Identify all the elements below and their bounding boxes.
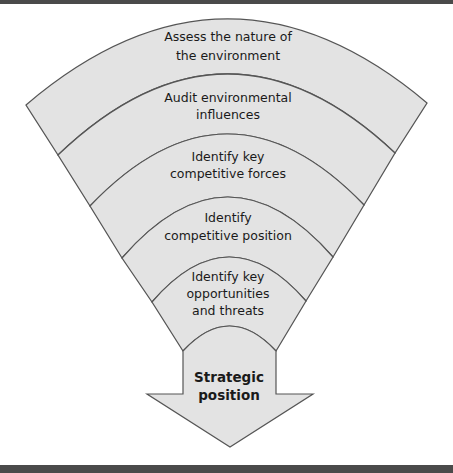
stage-1-label-line-1: Assess the nature of	[164, 29, 292, 44]
output-label-line-2: position	[198, 387, 260, 403]
strategic-position-diagram: Assess the nature ofthe environmentAudit…	[0, 0, 453, 473]
stage-2-label-line-2: influences	[196, 107, 260, 122]
stage-5-label-line-3: and threats	[192, 303, 264, 318]
bottom-frame-bar	[0, 465, 453, 473]
stage-3-label-line-2: competitive forces	[170, 166, 286, 181]
output-label-line-1: Strategic	[194, 369, 264, 385]
stage-3-label-line-1: Identify key	[191, 149, 265, 164]
stage-4-label-line-2: competitive position	[164, 228, 292, 243]
stage-5-label-line-1: Identify key	[191, 269, 265, 284]
stage-5-label-line-2: opportunities	[186, 286, 269, 301]
stage-1-label-line-2: the environment	[176, 48, 280, 63]
stage-2-label-line-1: Audit environmental	[164, 90, 292, 105]
stage-4-label-line-1: Identify	[204, 210, 252, 225]
